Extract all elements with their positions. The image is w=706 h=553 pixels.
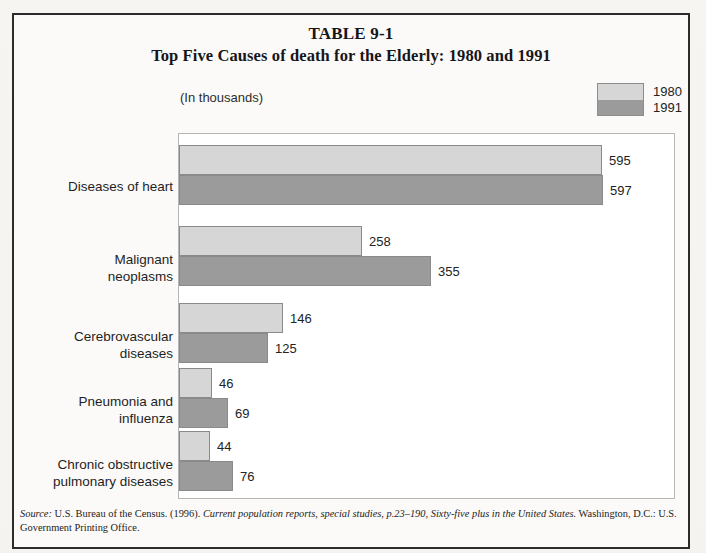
bar-row: 146 <box>179 303 312 333</box>
bar-1980[interactable] <box>179 303 283 333</box>
bar-row: 69 <box>179 398 249 428</box>
bar-value-label: 69 <box>235 406 249 421</box>
bar-1991[interactable] <box>179 256 431 286</box>
bar-value-label: 44 <box>217 439 231 454</box>
legend-label-1980: 1980 <box>653 84 682 99</box>
bar-1991[interactable] <box>179 461 233 491</box>
bar-row: 597 <box>179 175 632 205</box>
bar-1980[interactable] <box>179 368 212 398</box>
bar-group: Malignantneoplasms258355 <box>179 226 460 286</box>
bar-value-label: 46 <box>219 376 233 391</box>
category-label: Cerebrovasculardiseases <box>17 329 173 362</box>
category-label-line: pulmonary diseases <box>17 474 173 491</box>
category-label: Chronic obstructivepulmonary diseases <box>17 457 173 490</box>
chart-plot-area: Diseases of heart595597Malignantneoplasm… <box>178 133 675 499</box>
category-label-line: Diseases of heart <box>17 179 173 196</box>
bar-group: Pneumonia andinfluenza4669 <box>179 368 249 428</box>
bar-group: Cerebrovasculardiseases146125 <box>179 303 312 363</box>
category-label-line: Malignant <box>17 252 173 269</box>
source-text-before: U.S. Bureau of the Census. (1996). <box>52 508 203 519</box>
bar-value-label: 595 <box>609 153 631 168</box>
table-title: Top Five Causes of death for the Elderly… <box>14 46 688 66</box>
source-label: Source: <box>20 508 52 519</box>
category-label: Diseases of heart <box>17 179 173 196</box>
bar-value-label: 597 <box>610 183 632 198</box>
bar-value-label: 355 <box>438 264 460 279</box>
bar-row: 595 <box>179 145 632 175</box>
bar-group: Diseases of heart595597 <box>179 145 632 205</box>
bar-value-label: 76 <box>240 469 254 484</box>
legend-swatch <box>597 83 644 116</box>
bar-1980[interactable] <box>179 431 210 461</box>
source-italic-title: Current population reports, special stud… <box>203 508 576 519</box>
bar-value-label: 258 <box>369 234 391 249</box>
bar-row: 355 <box>179 256 460 286</box>
category-label-line: Chronic obstructive <box>17 457 173 474</box>
category-label-line: neoplasms <box>17 269 173 286</box>
legend-swatch-1991 <box>598 100 643 116</box>
legend-labels: 19801991 <box>653 83 682 116</box>
category-label: Pneumonia andinfluenza <box>17 394 173 427</box>
bar-1991[interactable] <box>179 398 228 428</box>
bar-group: Chronic obstructivepulmonary diseases447… <box>179 431 254 491</box>
category-label: Malignantneoplasms <box>17 252 173 285</box>
bar-1980[interactable] <box>179 226 362 256</box>
legend-label-1991: 1991 <box>653 100 682 115</box>
table-frame: TABLE 9-1 Top Five Causes of death for t… <box>12 13 690 549</box>
source-note: Source: U.S. Bureau of the Census. (1996… <box>20 507 686 534</box>
category-label-line: diseases <box>17 346 173 363</box>
category-label-line: Pneumonia and <box>17 394 173 411</box>
bar-1980[interactable] <box>179 145 602 175</box>
units-note: (In thousands) <box>180 90 263 105</box>
category-label-line: influenza <box>17 411 173 428</box>
bar-row: 258 <box>179 226 460 256</box>
bar-1991[interactable] <box>179 333 268 363</box>
chart-legend: 19801991 <box>597 83 682 116</box>
bar-1991[interactable] <box>179 175 603 205</box>
bar-row: 76 <box>179 461 254 491</box>
category-label-line: Cerebrovascular <box>17 329 173 346</box>
bar-row: 44 <box>179 431 254 461</box>
legend-swatch-1980 <box>598 84 643 100</box>
bar-value-label: 146 <box>290 311 312 326</box>
table-number: TABLE 9-1 <box>14 24 688 44</box>
bar-row: 46 <box>179 368 249 398</box>
bar-row: 125 <box>179 333 312 363</box>
bar-value-label: 125 <box>275 341 297 356</box>
